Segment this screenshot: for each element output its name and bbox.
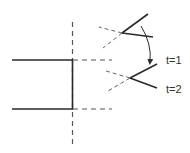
- lower-junction: [106, 64, 157, 91]
- upper-junction: [99, 14, 153, 48]
- label-t2: t=2: [166, 83, 182, 95]
- diagram-canvas: t=1 t=2: [0, 0, 190, 153]
- transition-arrow: [141, 26, 150, 62]
- solid-bracket-shape: [12, 60, 73, 109]
- label-t1: t=1: [166, 54, 182, 66]
